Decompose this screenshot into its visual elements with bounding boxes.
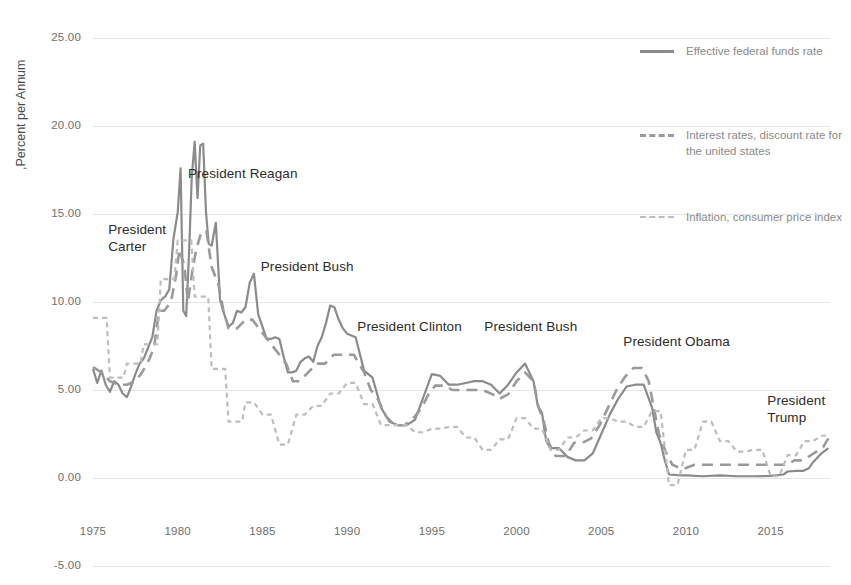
legend-label: Inflation, consumer price index: [686, 210, 846, 226]
x-axis-tick-label: 1985: [232, 525, 292, 537]
legend-label: Effective federal funds rate: [686, 44, 846, 60]
y-axis-tick-label: 5.00: [15, 383, 81, 395]
x-axis-tick-label: 2010: [656, 525, 716, 537]
gridline-y: [93, 566, 830, 567]
x-axis-tick-label: 1990: [317, 525, 377, 537]
gridline-y: [93, 38, 830, 39]
y-axis-tick-label: 10.00: [15, 295, 81, 307]
y-axis-tick-label: 0.00: [15, 471, 81, 483]
gridline-y: [93, 390, 830, 391]
y-axis-tick-label: 20.00: [15, 119, 81, 131]
y-axis-tick-label: 25.00: [15, 31, 81, 43]
x-axis-tick-label: 2005: [571, 525, 631, 537]
x-axis-tick-label: 2015: [741, 525, 801, 537]
chart-annotation: President Bush: [484, 318, 577, 335]
chart-annotation: President Clinton: [357, 318, 462, 335]
chart-title: [0, 0, 851, 1]
y-axis-title: ,Percent per Annum: [14, 60, 28, 170]
x-axis-tick-label: 1995: [402, 525, 462, 537]
gridline-y: [93, 302, 830, 303]
legend-label: Interest rates, discount rate for the un…: [686, 128, 846, 160]
x-axis-tick-label: 1975: [63, 525, 123, 537]
x-axis-tick-label: 1980: [148, 525, 208, 537]
chart-annotation: President Reagan: [188, 165, 298, 182]
chart-container: ,Percent per Annum 25.0020.0015.0010.005…: [0, 0, 851, 585]
y-axis-tick-label: 15.00: [15, 207, 81, 219]
x-axis-tick-label: 2000: [487, 525, 547, 537]
chart-annotation: President Obama: [623, 333, 730, 350]
y-axis-tick-label: -5.00: [15, 559, 81, 571]
chart-annotation: President Carter: [108, 221, 166, 256]
legend-swatch-solid-line-icon: [640, 50, 674, 53]
chart-annotation: President Bush: [261, 258, 354, 275]
gridline-y: [93, 126, 830, 127]
chart-annotation: President Trump: [767, 392, 825, 427]
legend-swatch-dashed-line-icon: [640, 134, 674, 137]
plot-area: 25.0020.0015.0010.005.000.00-5.001975198…: [93, 38, 830, 566]
legend-swatch-dotted-line-icon: [640, 216, 674, 218]
gridline-y: [93, 478, 830, 479]
